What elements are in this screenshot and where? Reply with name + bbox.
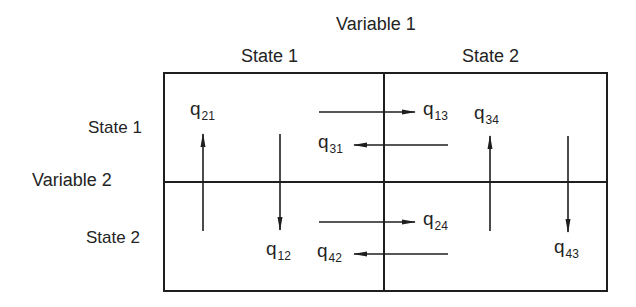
row-label-state2: State 2 — [86, 228, 140, 248]
variable1-label: Variable 1 — [336, 14, 416, 35]
rate-q34: q34 — [474, 102, 499, 127]
rate-q21: q21 — [190, 98, 215, 123]
rate-q43: q43 — [554, 236, 579, 261]
column-label-state1: State 1 — [241, 46, 298, 67]
row-label-state1: State 1 — [88, 118, 142, 138]
rate-q13: q13 — [423, 98, 448, 123]
rate-q31: q31 — [318, 131, 343, 156]
rate-q24: q24 — [423, 208, 448, 233]
rate-q42: q42 — [317, 240, 342, 265]
column-label-state2: State 2 — [462, 46, 519, 67]
rate-q12: q12 — [266, 238, 291, 263]
state-grid — [164, 73, 607, 291]
variable2-label: Variable 2 — [32, 170, 112, 191]
